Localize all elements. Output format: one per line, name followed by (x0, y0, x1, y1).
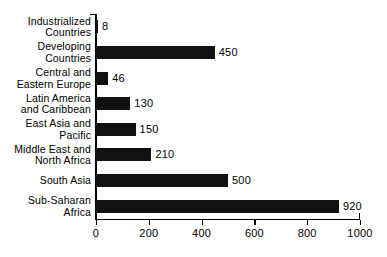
category-label: Developing Countries (0, 41, 91, 64)
x-tick-label: 0 (93, 227, 99, 240)
x-tick-label: 600 (245, 227, 264, 240)
bar (96, 123, 136, 136)
x-tick-label: 800 (298, 227, 317, 240)
bar-value-label: 150 (140, 123, 159, 136)
bar-row: Developing Countries450 (0, 40, 387, 66)
bar (96, 148, 151, 161)
bar-row: Central and Eastern Europe46 (0, 65, 387, 91)
bar-value-label: 450 (219, 46, 238, 59)
bar (96, 46, 215, 59)
category-label: Industrialized Countries (0, 16, 91, 39)
bar-value-label: 130 (134, 97, 153, 110)
bar-row: Latin America and Caribbean130 (0, 91, 387, 117)
bar-row: East Asia and Pacific150 (0, 117, 387, 143)
x-axis-line (95, 219, 360, 220)
bar-row: Middle East and North Africa210 (0, 142, 387, 168)
bar (96, 200, 339, 213)
category-label: East Asia and Pacific (0, 118, 91, 141)
bar (96, 97, 130, 110)
category-label: Sub-Saharan Africa (0, 195, 91, 218)
x-tick (307, 220, 308, 225)
x-axis-right-cap (359, 213, 360, 219)
bar (96, 72, 108, 85)
bar-value-label: 500 (232, 174, 251, 187)
x-tick (202, 220, 203, 225)
bar-row: South Asia500 (0, 168, 387, 194)
bar (96, 174, 228, 187)
category-label: South Asia (0, 175, 91, 187)
bar-value-label: 8 (102, 20, 108, 33)
bar (96, 20, 98, 33)
bar-value-label: 210 (155, 148, 174, 161)
bar-value-label: 46 (112, 72, 125, 85)
x-tick-label: 200 (139, 227, 158, 240)
category-label: Central and Eastern Europe (0, 67, 91, 90)
x-tick-label: 400 (192, 227, 211, 240)
bar-row: Industrialized Countries8 (0, 14, 387, 40)
x-tick (254, 220, 255, 225)
x-tick (149, 220, 150, 225)
category-label: Latin America and Caribbean (0, 93, 91, 116)
x-tick (360, 220, 361, 225)
bar-chart: Industrialized Countries8Developing Coun… (0, 0, 387, 257)
bar-row: Sub-Saharan Africa920 (0, 193, 387, 219)
x-tick-label: 1000 (347, 227, 372, 240)
bar-value-label: 920 (343, 200, 362, 213)
x-tick (96, 220, 97, 225)
category-label: Middle East and North Africa (0, 144, 91, 167)
